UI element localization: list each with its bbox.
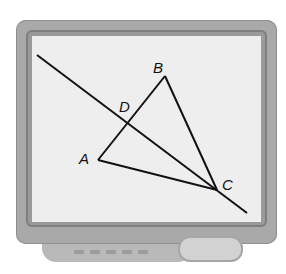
segment-bc xyxy=(165,76,217,190)
label-b: B xyxy=(153,59,163,76)
geometry-figure: B A C D xyxy=(0,0,286,274)
label-a: A xyxy=(78,150,89,167)
segment-ac xyxy=(98,160,217,190)
label-c: C xyxy=(222,176,233,193)
segment-ab xyxy=(98,76,165,160)
label-d: D xyxy=(119,98,130,115)
